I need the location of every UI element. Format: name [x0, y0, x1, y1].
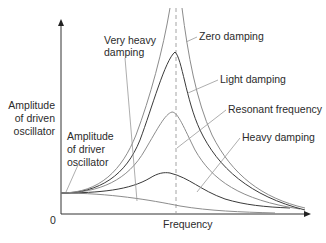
y-axis-label-line1: Amplitude — [8, 99, 55, 111]
label-zero-damping: Zero damping — [199, 30, 264, 42]
resonance-diagram: Very heavy damping Zero damping Light da… — [0, 0, 326, 243]
leader-zero — [186, 37, 197, 42]
label-driver-line2: of driver — [67, 143, 105, 155]
leader-very-heavy — [125, 58, 137, 201]
label-heavy-damping: Heavy damping — [242, 131, 315, 143]
leader-light — [188, 80, 218, 93]
y-axis-label-line3: oscillator — [14, 125, 56, 137]
label-driver-line1: Amplitude — [67, 130, 114, 142]
origin-label: 0 — [50, 214, 56, 226]
label-resonant-frequency: Resonant frequency — [228, 103, 323, 115]
x-axis-label: Frequency — [163, 218, 213, 230]
label-driver-line3: oscillator — [67, 156, 109, 168]
y-axis-label-line2: of driven — [15, 112, 55, 124]
label-light-damping: Light damping — [220, 73, 286, 85]
label-very-heavy-line1: Very heavy — [104, 34, 157, 46]
leader-driver — [66, 165, 78, 192]
label-very-heavy-line2: damping — [104, 46, 144, 58]
